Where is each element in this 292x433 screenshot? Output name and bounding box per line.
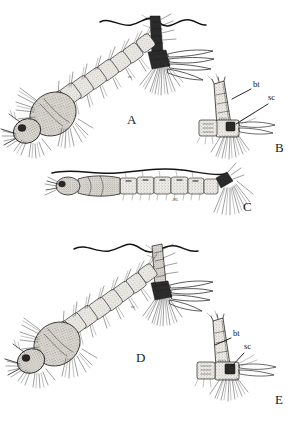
label-bt-e: bt — [233, 328, 240, 338]
plate-background — [0, 0, 292, 433]
saddle-comb-b — [226, 122, 235, 131]
panel-letter-c: C — [243, 199, 252, 214]
anal-saddle-b — [216, 120, 239, 137]
seta-id-mark-d: vii — [131, 305, 135, 309]
artist-signature: JRL — [172, 198, 179, 202]
anal-segment-a — [148, 50, 170, 69]
eye-a — [18, 125, 26, 132]
panel-letter-b: B — [275, 140, 284, 155]
seta-id-mark-a: vii — [128, 75, 132, 79]
label-sc-e: sc — [244, 341, 251, 351]
anal-segment-d — [151, 281, 172, 300]
eye-c — [59, 181, 66, 187]
plate-canvas: vii — [0, 0, 292, 433]
illustration-plate: vii — [0, 0, 292, 433]
label-bt-b: bt — [253, 79, 260, 89]
panel-letter-d: D — [136, 350, 145, 365]
anal-saddle-e — [215, 362, 239, 380]
label-sc-b: sc — [268, 92, 275, 102]
panel-letter-a: A — [127, 112, 137, 127]
panel-letter-e: E — [275, 392, 283, 407]
eye-d — [22, 355, 30, 362]
saddle-comb-e — [225, 364, 235, 374]
